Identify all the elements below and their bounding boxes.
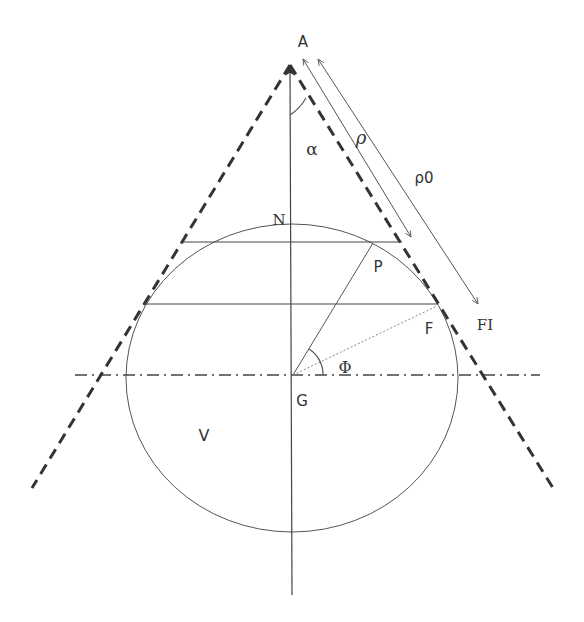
label-f-prime: FI [477,316,493,334]
label-rho0: ρ0 [414,169,433,187]
label-f: F [425,320,434,338]
cone-sphere-diagram: A α ρ ρ0 N P F FI G Φ V [0,0,584,622]
label-v: V [199,426,210,445]
rho0-arrow [318,59,478,304]
label-rho: ρ [355,127,367,148]
label-alpha: α [306,139,318,159]
alpha-angle-arc [290,98,306,115]
label-phi: Φ [338,358,351,377]
label-apex-a: A [298,33,309,51]
right-generatrix [290,65,553,488]
label-p: P [373,258,382,276]
rho-arrow [303,59,411,237]
phi-angle-arc [309,349,323,375]
left-generatrix [32,65,290,488]
radius-gf-dotted [293,306,437,375]
vertical-axis [290,68,292,595]
radius-gp [293,243,373,375]
label-n: N [272,211,285,229]
label-g: G [296,392,308,410]
